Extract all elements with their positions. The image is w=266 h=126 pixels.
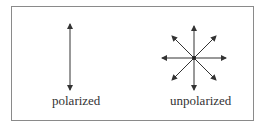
polarized-label: polarized (52, 93, 100, 109)
unpolarized-star-icon (162, 26, 226, 90)
unpolarized-label: unpolarized (170, 93, 231, 109)
